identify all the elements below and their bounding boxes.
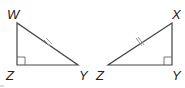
congruent-triangles-diagram: W Z Y X Z Y	[0, 0, 185, 88]
vertex-label-x: X	[171, 7, 182, 22]
vertex-label-w: W	[7, 7, 21, 22]
vertex-label-y-left: Y	[79, 68, 89, 83]
vertex-label-z-left: Z	[5, 68, 15, 83]
triangle-xyz: X Z Y	[95, 7, 182, 83]
right-angle-mark-y	[164, 57, 172, 65]
vertex-label-z-right: Z	[95, 68, 105, 83]
vertex-label-y-right: Y	[172, 68, 182, 83]
diagram-svg: W Z Y X Z Y	[0, 0, 185, 88]
triangle-wzy: W Z Y	[5, 7, 89, 83]
right-angle-mark-z	[17, 57, 25, 65]
